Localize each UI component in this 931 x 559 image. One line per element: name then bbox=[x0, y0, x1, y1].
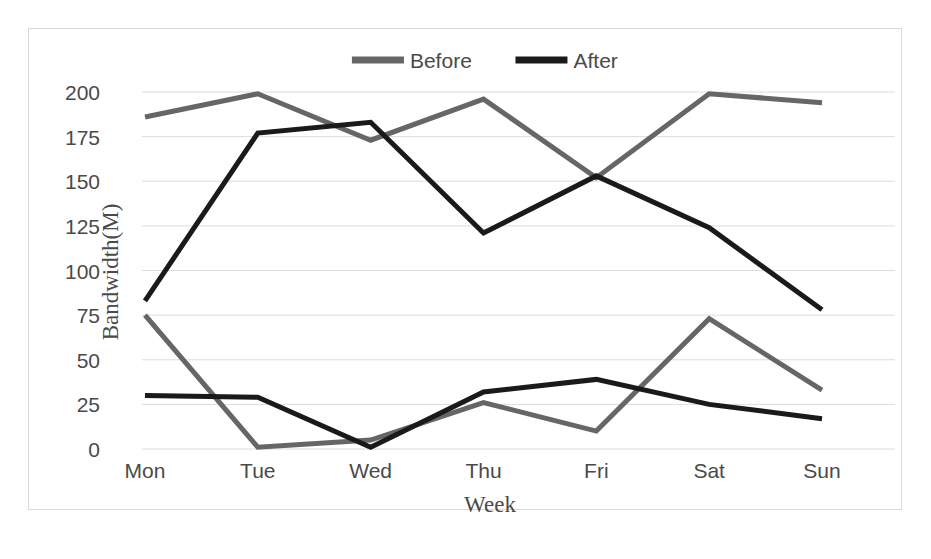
y-tick-label: 125 bbox=[65, 215, 100, 238]
x-tick-label: Thu bbox=[465, 459, 501, 482]
x-tick-label: Tue bbox=[240, 459, 275, 482]
x-tick-label: Wed bbox=[349, 459, 392, 482]
y-tick-label: 150 bbox=[65, 170, 100, 193]
x-tick-label: Sat bbox=[693, 459, 725, 482]
y-tick-label: 175 bbox=[65, 126, 100, 149]
legend-label-before[interactable]: Before bbox=[410, 49, 472, 72]
y-tick-label: 75 bbox=[77, 304, 100, 327]
y-tick-label: 100 bbox=[65, 260, 100, 283]
x-tick-label: Sun bbox=[803, 459, 840, 482]
x-axis-tick-labels: MonTueWedThuFriSatSun bbox=[125, 459, 841, 482]
y-tick-label: 50 bbox=[77, 349, 100, 372]
x-tick-label: Fri bbox=[584, 459, 609, 482]
series-line-before-lower bbox=[145, 315, 822, 447]
y-tick-label: 0 bbox=[88, 438, 100, 461]
x-tick-label: Mon bbox=[125, 459, 166, 482]
series-line-after-upper bbox=[145, 122, 822, 309]
x-axis-title: Week bbox=[464, 492, 516, 517]
series-line-before-upper bbox=[145, 94, 822, 178]
y-tick-label: 200 bbox=[65, 81, 100, 104]
y-tick-label: 25 bbox=[77, 393, 100, 416]
y-axis-title: Bandwidth(M) bbox=[98, 204, 123, 341]
y-axis-tick-labels: 0255075100125150175200 bbox=[65, 81, 100, 461]
chart-legend: BeforeAfter bbox=[352, 49, 618, 72]
chart-canvas: 0255075100125150175200 MonTueWedThuFriSa… bbox=[0, 0, 931, 559]
legend-label-after[interactable]: After bbox=[573, 49, 617, 72]
